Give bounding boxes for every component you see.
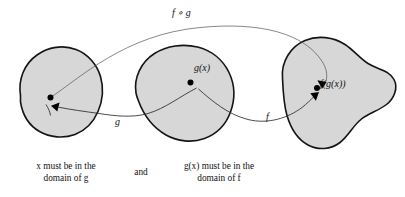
- caption-domain-of-f: g(x) must be in the domain of f: [158, 161, 280, 184]
- function-composition-figure: f ∘ g g(x) f(g(x)) g f x must be in the …: [0, 0, 405, 197]
- label-f-of-g-of-x: f(g(x)): [320, 79, 346, 89]
- point-gx: [188, 80, 194, 86]
- caption-domain-of-g-line1: x must be in the: [36, 161, 95, 171]
- label-arrow-g: g: [115, 117, 120, 127]
- label-g-of-x: g(x): [194, 63, 210, 73]
- point-x: [48, 95, 54, 101]
- caption-conjunction-text: and: [134, 167, 147, 177]
- label-arrow-f: f: [266, 112, 269, 122]
- label-f-compose-g: f ∘ g: [172, 8, 191, 18]
- set-blob-range-of-f: [282, 37, 395, 148]
- caption-domain-of-g: x must be in the domain of g: [12, 161, 120, 184]
- set-blob-domain-of-f: [136, 45, 234, 141]
- caption-domain-of-f-line1: g(x) must be in the: [184, 161, 254, 171]
- caption-domain-of-g-line2: domain of g: [44, 173, 89, 183]
- caption-conjunction: and: [122, 167, 160, 179]
- caption-domain-of-f-line2: domain of f: [197, 173, 240, 183]
- set-blob-domain-of-g: [20, 47, 102, 137]
